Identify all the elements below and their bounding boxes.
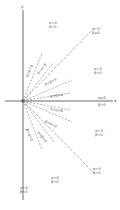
- region-label: α<0β<0: [93, 167, 101, 175]
- region-label: β<0: [98, 103, 106, 107]
- x-axis-label: x: [114, 98, 116, 103]
- y-axis-label: y: [21, 4, 23, 9]
- region-label: α<0β<0: [20, 186, 28, 194]
- ray-lower-4: [23, 101, 42, 150]
- phase-diagram: y x α<0β>0α>0β=0α>0β>0α=0β<0α>0β<0α<0β<0…: [0, 0, 120, 210]
- region-label: α>0β<0: [95, 129, 103, 137]
- region-label: α>0β=0: [92, 27, 100, 35]
- region-label: α>0β>0: [94, 67, 102, 75]
- ray-upper-3: [23, 93, 70, 101]
- ray-lower-2: [23, 101, 72, 122]
- region-label: α<0β<0: [51, 176, 59, 184]
- region-label: α<0β>0: [49, 21, 57, 29]
- region-label: α=0: [98, 96, 106, 100]
